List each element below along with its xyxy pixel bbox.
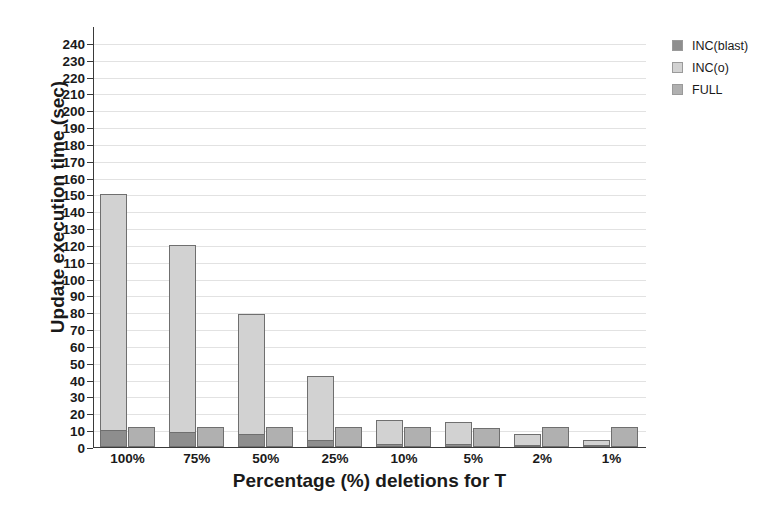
bar-group [439, 27, 508, 447]
bar-incblast-50pct [238, 434, 265, 447]
y-axis-tick-label: 110 [45, 255, 85, 270]
x-axis-tick-label: 25% [321, 451, 348, 466]
bar-incblast-10pct [376, 444, 403, 447]
y-axis-tick-label: 120 [45, 238, 85, 253]
bar-group [231, 27, 300, 447]
y-axis-tick-label: 50 [45, 356, 85, 371]
bar-inco-75pct [169, 245, 196, 447]
y-axis-tick-label: 0 [45, 441, 85, 456]
y-axis-tick-mark [87, 448, 93, 449]
bar-incblast-100pct [100, 430, 127, 447]
legend-swatch-icon [672, 62, 683, 73]
y-axis-tick-label: 130 [45, 222, 85, 237]
bar-full-50pct [266, 427, 293, 447]
bar-group [162, 27, 231, 447]
chart-figure: Update execution time (sec) 010203040506… [0, 0, 775, 518]
bar-incblast-2pct [514, 445, 541, 447]
y-axis-tick-label: 190 [45, 121, 85, 136]
y-axis-tick-label: 20 [45, 407, 85, 422]
y-axis-tick-label: 140 [45, 205, 85, 220]
bar-full-5pct [473, 428, 500, 447]
y-axis-tick-label: 210 [45, 87, 85, 102]
y-axis-tick-label: 60 [45, 339, 85, 354]
y-axis-tick-label: 80 [45, 306, 85, 321]
y-axis-tick-label: 230 [45, 53, 85, 68]
bar-group [508, 27, 577, 447]
legend-label: INC(o) [692, 61, 729, 75]
legend-item: FULL [672, 80, 772, 99]
legend-swatch-icon [672, 40, 683, 51]
x-axis-tick-label: 5% [463, 451, 483, 466]
chart-legend: INC(blast)INC(o)FULL [672, 36, 772, 102]
x-axis-tick-label: 10% [391, 451, 418, 466]
bar-full-75pct [197, 427, 224, 447]
bar-incblast-25pct [307, 440, 334, 447]
bar-inco-25pct [307, 376, 334, 447]
bar-full-2pct [542, 427, 569, 447]
bar-group [93, 27, 162, 447]
y-axis-tick-label: 40 [45, 373, 85, 388]
y-axis-tick-label: 30 [45, 390, 85, 405]
bar-inco-50pct [238, 314, 265, 447]
legend-item: INC(o) [672, 58, 772, 77]
x-axis-tick-label: 2% [533, 451, 553, 466]
x-axis-title: Percentage (%) deletions for T [93, 470, 646, 492]
legend-label: INC(blast) [692, 39, 748, 53]
bar-incblast-5pct [445, 444, 472, 447]
bar-incblast-75pct [169, 432, 196, 447]
y-axis-tick-label: 10 [45, 424, 85, 439]
y-axis-tick-label: 100 [45, 272, 85, 287]
bar-group [300, 27, 369, 447]
bar-group [370, 27, 439, 447]
x-axis-tick-label: 75% [183, 451, 210, 466]
bar-full-100pct [128, 427, 155, 447]
bar-group [577, 27, 646, 447]
y-axis-tick-label: 150 [45, 188, 85, 203]
x-axis-tick-label: 100% [110, 451, 145, 466]
plot-area: 0102030405060708090100110120130140150160… [93, 27, 646, 448]
y-axis-tick-label: 170 [45, 154, 85, 169]
y-axis-tick-label: 90 [45, 289, 85, 304]
bar-full-10pct [404, 427, 431, 447]
legend-swatch-icon [672, 84, 683, 95]
bar-full-1pct [611, 427, 638, 447]
y-axis-tick-label: 240 [45, 36, 85, 51]
y-axis-tick-label: 160 [45, 171, 85, 186]
bar-full-25pct [335, 427, 362, 447]
bar-incblast-1pct [583, 445, 610, 447]
x-axis-tick-label: 1% [602, 451, 622, 466]
y-axis-tick-label: 70 [45, 323, 85, 338]
bar-inco-100pct [100, 194, 127, 447]
y-axis-tick-label: 200 [45, 104, 85, 119]
x-axis-line [93, 447, 646, 448]
x-axis-tick-label: 50% [252, 451, 279, 466]
legend-label: FULL [692, 83, 723, 97]
y-axis-tick-label: 180 [45, 137, 85, 152]
legend-item: INC(blast) [672, 36, 772, 55]
y-axis-tick-label: 220 [45, 70, 85, 85]
